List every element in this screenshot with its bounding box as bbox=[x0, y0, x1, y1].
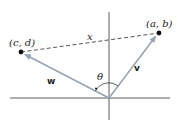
vector-v bbox=[109, 37, 156, 99]
vector-v-label: v bbox=[134, 63, 140, 73]
point-ab bbox=[157, 31, 162, 36]
point-cd-label: (c, d) bbox=[9, 37, 35, 48]
angle-theta-label: θ bbox=[97, 71, 103, 82]
vector-angle-diagram: (c, d) (a, b) x w v θ bbox=[0, 0, 178, 125]
segment-x-label: x bbox=[87, 31, 93, 42]
angle-arc-marker bbox=[95, 88, 97, 90]
point-ab-label: (a, b) bbox=[146, 18, 173, 29]
vector-w-label: w bbox=[47, 76, 55, 86]
point-cd bbox=[19, 50, 24, 55]
diagram-canvas: (c, d) (a, b) x w v θ bbox=[0, 0, 178, 125]
